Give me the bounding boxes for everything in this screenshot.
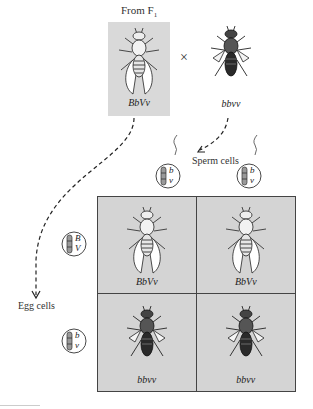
offspring-genotype: bbvv <box>98 374 196 385</box>
black-vestigial-fly-icon <box>124 304 170 370</box>
allele-top: b <box>250 165 255 175</box>
sperm-gamete-1: b v <box>155 163 181 189</box>
egg-cells-label: Egg cells <box>18 300 55 311</box>
allele-top: b <box>75 330 80 340</box>
sperm-cells-label: Sperm cells <box>192 155 239 166</box>
chromosome-icon <box>61 231 87 257</box>
sperm-gamete-2: b v <box>236 163 262 189</box>
allele-top: b <box>169 165 174 175</box>
punnett-cell: bbvv <box>197 294 296 391</box>
chromosome-icon <box>236 163 262 189</box>
chromosome-icon <box>155 163 181 189</box>
offspring-genotype: BbVv <box>98 276 196 287</box>
allele-bottom: v <box>75 340 79 350</box>
black-vestigial-fly-icon <box>223 304 269 370</box>
allele-bottom: v <box>169 175 173 185</box>
sperm-arrow <box>200 118 228 150</box>
allele-bottom: v <box>250 175 254 185</box>
offspring-genotype: bbvv <box>197 374 296 385</box>
wild-type-fly-icon <box>223 205 269 275</box>
allele-bottom: V <box>75 243 81 253</box>
punnett-cell: BbVv <box>197 197 296 294</box>
punnett-cell: BbVv <box>98 197 197 294</box>
egg-gamete-1: B V <box>61 231 87 257</box>
egg-gamete-2: b v <box>61 328 87 354</box>
offspring-genotype: BbVv <box>197 276 296 287</box>
divider <box>0 405 40 406</box>
punnett-square: BbVv BbVv bbvv bbvv <box>97 196 296 392</box>
punnett-cell: bbvv <box>98 294 197 391</box>
chromosome-icon <box>61 328 87 354</box>
allele-top: B <box>75 233 81 243</box>
wild-type-fly-icon <box>124 205 170 275</box>
